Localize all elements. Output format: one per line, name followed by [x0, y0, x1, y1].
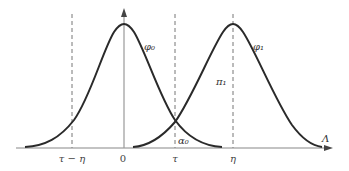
label-alpha0: α₀	[178, 135, 189, 146]
tick-label-zero: 0	[120, 153, 126, 164]
x-axis-arrowhead-icon	[324, 145, 333, 151]
x-axis-label: Λ	[321, 133, 329, 144]
distribution-diagram: φ₀ φ₁ π₁ α₀ Λ τ − η 0 τ η	[0, 0, 349, 171]
curve-phi1	[133, 24, 322, 147]
tick-label-eta: η	[230, 153, 236, 164]
y-axis-arrowhead-icon	[121, 8, 127, 17]
label-pi1: π₁	[215, 76, 227, 87]
label-phi0: φ₀	[144, 41, 155, 52]
label-phi1: φ₁	[253, 41, 264, 52]
tick-label-tau-minus-eta: τ − η	[59, 153, 85, 164]
tick-label-tau: τ	[172, 153, 178, 164]
